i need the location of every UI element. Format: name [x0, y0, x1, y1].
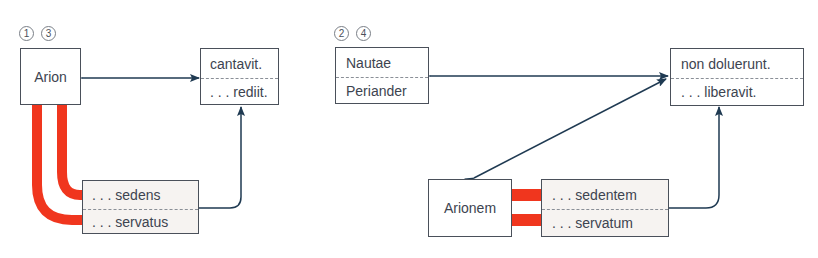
object-label: Arionem — [429, 180, 511, 236]
step-marker-1: 1 — [19, 26, 34, 41]
step-marker-4: 4 — [356, 26, 371, 41]
predicate-top: non doluerunt. — [671, 49, 803, 78]
agreement-bars-right — [511, 189, 541, 226]
participle-top: . . . sedentem — [542, 180, 668, 209]
predicate-box-left: cantavit. . . . rediit. — [200, 48, 279, 105]
subject-box-arion: Arion — [20, 48, 81, 105]
step-marker-2: 2 — [334, 26, 349, 41]
predicate-bottom: . . . liberavit. — [671, 78, 803, 106]
predicate-top: cantavit. — [201, 49, 278, 78]
subject-box-nautae: Nautae Periander — [335, 47, 429, 104]
subject-label: Arion — [21, 49, 80, 104]
subject-top: Nautae — [336, 48, 428, 77]
participle-bottom: . . . servatus — [83, 209, 198, 234]
participle-box-right: . . . sedentem . . . servatum — [541, 179, 669, 237]
arrow-participle-rediit — [198, 107, 241, 208]
arrow-arionem-doluerunt — [474, 79, 666, 178]
agreement-bars-left — [37, 105, 83, 220]
step-marker-3: 3 — [41, 26, 56, 41]
predicate-bottom: . . . rediit. — [201, 78, 278, 105]
participle-box-left: . . . sedens . . . servatus — [82, 180, 199, 234]
participle-top: . . . sedens — [83, 181, 198, 209]
predicate-box-right: non doluerunt. . . . liberavit. — [670, 48, 804, 106]
subject-bottom: Periander — [336, 77, 428, 104]
object-box-arionem: Arionem — [428, 179, 512, 237]
arrow-participle-liberavit — [668, 107, 719, 208]
participle-bottom: . . . servatum — [542, 209, 668, 237]
